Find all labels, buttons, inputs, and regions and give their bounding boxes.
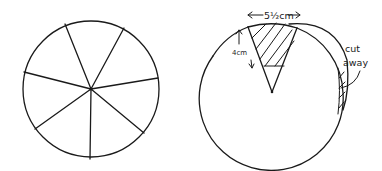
diagram-canvas: 5½cm 4cm cut away — [0, 0, 382, 171]
height-label: 4cm — [232, 49, 247, 57]
removed-sector-triangle — [248, 27, 297, 93]
right-cut-circle: 5½cm 4cm cut away — [199, 10, 368, 170]
width-label: 5½cm — [264, 10, 294, 21]
hatched-region — [252, 23, 294, 66]
left-sectored-circle — [23, 21, 159, 159]
cut-away-label-line2: away — [343, 57, 368, 68]
right-circle-outline — [199, 28, 343, 170]
cut-away-label-line1: cut — [345, 43, 360, 54]
cut-away-leader-line — [341, 71, 360, 88]
